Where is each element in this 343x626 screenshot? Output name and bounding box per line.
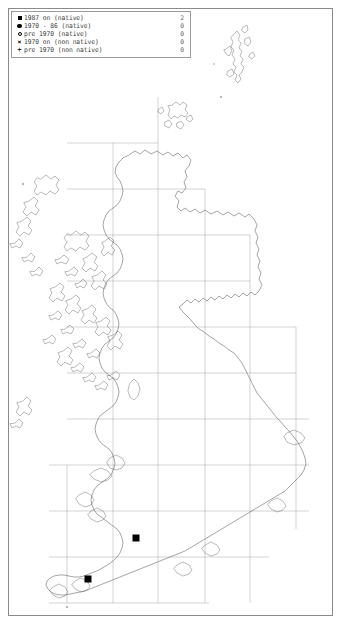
legend-row-1970-on-non-native: × 1970 on (non native) 0 [15,38,187,46]
legend-label: pre 1970 (non native) [24,46,170,54]
coast-west-scotland [49,237,123,358]
record-marker [85,576,92,583]
coast-northern-ireland [10,183,32,428]
legend-count: 2 [170,14,187,22]
legend-count: 0 [170,38,187,46]
coast-shetland [213,25,255,98]
map-canvas [9,9,332,615]
legend-count: 0 [170,30,187,38]
legend-count: 0 [170,22,187,30]
coast-orkney [158,102,193,129]
filled-square-icon [15,16,24,20]
distribution-map-page: 1987 on (native) 2 1970 - 86 (native) 0 … [0,0,343,626]
legend-row-pre-1970-native: pre 1970 (native) 0 [15,30,187,38]
grid-lines [49,97,309,603]
coast-isle-of-man [128,379,140,400]
coast-anglesey [107,455,125,470]
coast-outer-hebrides [10,175,59,276]
record-markers [85,535,140,583]
coast-mainland-britain [46,150,306,595]
legend-row-1987-on-native: 1987 on (native) 2 [15,14,187,22]
filled-circle-icon [15,24,24,29]
coast-wales-detail [76,468,112,522]
legend-row-1970-86-native: 1970 - 86 (native) 0 [15,22,187,30]
legend-row-pre-1970-non-native: + pre 1970 (non native) 0 [15,46,187,54]
coast-inner-hebrides [43,231,120,390]
record-marker [133,535,140,542]
open-circle-icon [15,32,24,36]
map-legend: 1987 on (native) 2 1970 - 86 (native) 0 … [11,11,191,58]
plus-icon: + [15,46,24,54]
legend-count: 0 [170,46,187,54]
